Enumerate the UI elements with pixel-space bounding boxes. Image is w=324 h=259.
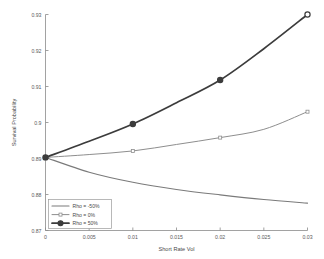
data-point-marker: [305, 12, 310, 17]
y-axis-title: Survival Probability: [11, 99, 17, 147]
legend-label-0: Rho = -50%: [73, 203, 101, 209]
series-line-1: [46, 112, 308, 158]
series-group: [43, 12, 310, 203]
x-tick-label: 0.01: [128, 234, 138, 240]
data-point-marker: [43, 155, 48, 160]
axis-frame: [46, 15, 308, 231]
x-tick-label: 0.005: [83, 234, 96, 240]
legend-marker-circle: [58, 221, 63, 226]
data-point-marker: [219, 136, 222, 139]
figure-canvas: 0.870.880.890.90.910.920.9300.0050.010.0…: [0, 0, 324, 259]
legend-label-1: Rho = 0%: [73, 212, 96, 218]
y-tick-label: 0.91: [31, 84, 41, 90]
data-point-marker: [306, 110, 309, 113]
legend-marker-square: [59, 213, 62, 216]
data-point-marker: [130, 121, 135, 126]
series-line-0: [46, 157, 308, 203]
data-point-marker: [131, 149, 134, 152]
chart-plot: 0.870.880.890.90.910.920.9300.0050.010.0…: [0, 0, 324, 259]
y-tick-label: 0.88: [31, 192, 41, 198]
y-tick-label: 0.93: [31, 12, 41, 18]
chart-legend[interactable]: Rho = -50%Rho = 0%Rho = 50%: [49, 200, 112, 229]
x-tick-label: 0.03: [302, 234, 312, 240]
x-axis-title: Short Rate Vol: [158, 246, 194, 252]
legend-label-2: Rho = 50%: [73, 220, 99, 226]
x-tick-label: 0: [44, 234, 47, 240]
y-tick-label: 0.89: [31, 156, 41, 162]
series-line-2: [46, 15, 308, 158]
x-tick-label: 0.02: [215, 234, 225, 240]
y-tick-label: 0.92: [31, 48, 41, 54]
data-point-marker: [218, 77, 223, 82]
y-tick-label: 0.87: [31, 228, 41, 234]
x-tick-label: 0.025: [257, 234, 270, 240]
x-tick-label: 0.015: [170, 234, 183, 240]
y-tick-label: 0.9: [34, 120, 41, 126]
